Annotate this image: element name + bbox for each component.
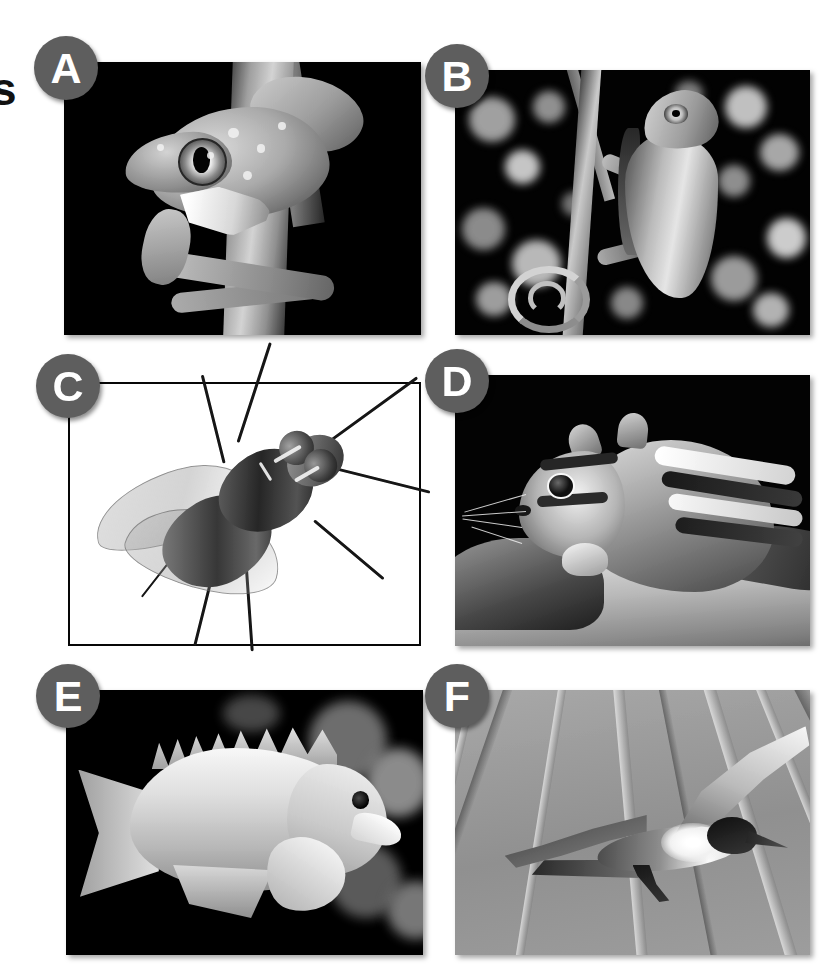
photo-chameleon [455, 70, 810, 335]
panel-label-b: B [425, 44, 489, 108]
panel-label-e-text: E [54, 675, 83, 718]
photo-housefly [68, 382, 421, 646]
panel-d[interactable]: D [455, 375, 810, 646]
panel-c[interactable]: C [68, 382, 421, 646]
panel-b[interactable]: B [455, 70, 810, 335]
margin-cutoff-glyph: s [0, 66, 15, 112]
panel-label-a: A [34, 36, 98, 100]
panel-label-b-text: B [441, 55, 472, 98]
panel-label-f-text: F [444, 675, 470, 718]
panel-label-c: C [36, 354, 100, 418]
panel-label-d: D [425, 349, 489, 413]
panel-a[interactable]: A [64, 62, 421, 335]
photo-tree-frog [64, 62, 421, 335]
figure-plate: s [0, 0, 840, 976]
photo-chipmunk [455, 375, 810, 646]
photo-damselfish [66, 690, 423, 955]
panel-label-d-text: D [441, 360, 472, 403]
panel-label-a-text: A [50, 47, 81, 90]
panel-label-f: F [425, 664, 489, 728]
panel-label-c-text: C [52, 365, 83, 408]
panel-label-e: E [36, 664, 100, 728]
photo-tern [455, 690, 810, 955]
panel-e[interactable]: E [66, 690, 423, 955]
panel-f[interactable]: F [455, 690, 810, 955]
